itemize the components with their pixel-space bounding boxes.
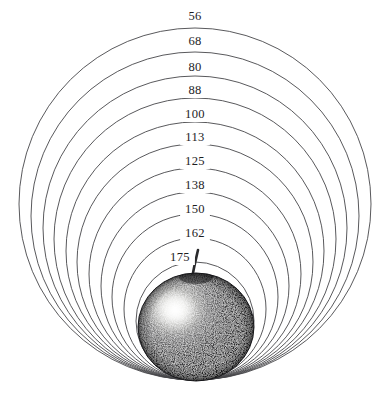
ring-label: 150: [185, 202, 205, 216]
apple-illustration: [138, 250, 254, 381]
apple-rim-shade: [138, 273, 254, 381]
diagram-canvas: 56688088100113125138150162175: [0, 0, 384, 398]
ring-label: 175: [170, 250, 190, 264]
ring-label: 113: [185, 130, 204, 144]
ring-label: 56: [188, 9, 201, 23]
ring-label: 125: [185, 154, 205, 168]
ring-label: 162: [185, 226, 205, 240]
ring-label: 138: [185, 178, 205, 192]
ring-label: 100: [185, 107, 205, 121]
ring-label: 68: [188, 34, 201, 48]
ring-label: 88: [188, 83, 201, 97]
nested-circles-svg: 56688088100113125138150162175: [0, 0, 384, 398]
ring-label: 80: [188, 60, 201, 74]
ring-label-group: 56688088100113125138150162175: [165, 9, 210, 265]
